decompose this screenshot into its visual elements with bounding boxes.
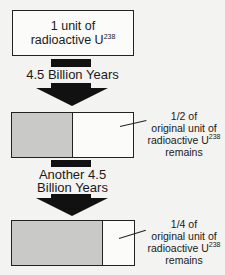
initial-amount-label: 1 unit of radioactive U238 [13,19,133,47]
decayed-portion [12,113,73,157]
annotation-line: 1/2 of [144,110,224,122]
half-life-2-annotation: 1/4 of original unit of radioactive U238… [144,218,224,266]
annotation-line: remains [144,146,224,158]
half-life-1-annotation: 1/2 of original unit of radioactive U238… [144,110,224,158]
arrow-1-stem-top [51,59,91,67]
step1-label: 4.5 Billion Years [10,68,135,82]
down-arrow-icon [36,198,108,217]
initial-amount-box: 1 unit of radioactive U238 [12,10,134,56]
down-arrow-icon [36,88,108,107]
annotation-line: remains [144,254,224,266]
annotation-line: radioactive U238 [144,134,224,146]
annotation-line: 1/4 of [144,218,224,230]
arrow-2-stem-top [51,160,91,167]
step2-label-line2: Billion Years [10,181,135,194]
initial-line2: radioactive U238 [13,33,133,47]
half-life-2-box [11,220,135,266]
step2-label: Another 4.5 Billion Years [10,168,135,194]
decayed-portion [12,221,103,265]
half-life-1-box [11,112,134,158]
annotation-line: radioactive U238 [144,242,224,254]
initial-line1: 1 unit of [13,19,133,33]
